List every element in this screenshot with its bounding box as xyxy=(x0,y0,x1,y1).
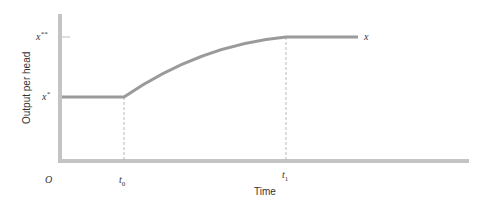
chart: x x** x* Output per head O t0 t1 Time xyxy=(0,0,490,205)
y-axis-label: Output per head xyxy=(21,52,32,124)
x-axis-label: Time xyxy=(254,186,276,197)
output-curve xyxy=(62,37,358,97)
t1-label: t1 xyxy=(282,169,289,183)
x-star-label: x* xyxy=(41,90,50,102)
t0-label: t0 xyxy=(119,174,126,188)
curve-label: x xyxy=(363,31,369,42)
x-double-star-label: x** xyxy=(35,30,48,42)
origin-label: O xyxy=(45,174,52,185)
